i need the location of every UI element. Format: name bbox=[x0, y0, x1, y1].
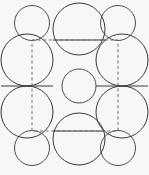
circle-corner-bottom-right bbox=[101, 131, 136, 166]
circle-right-upper bbox=[96, 34, 148, 86]
chord-lines-group bbox=[1, 40, 148, 131]
circle-packing-diagram bbox=[0, 0, 149, 175]
circle-left-lower bbox=[1, 86, 53, 138]
center-circle-group bbox=[62, 69, 96, 103]
circle-corner-bottom-left bbox=[15, 131, 50, 166]
packing-svg-canvas bbox=[0, 0, 149, 175]
circle-corner-top-left bbox=[15, 6, 50, 41]
circle-corner-top-right bbox=[101, 6, 136, 41]
large-circles-group bbox=[1, 3, 148, 165]
circle-left-upper bbox=[1, 34, 53, 86]
circle-center bbox=[62, 69, 96, 103]
circle-top-center bbox=[53, 3, 105, 55]
circle-bottom-center bbox=[53, 113, 105, 165]
